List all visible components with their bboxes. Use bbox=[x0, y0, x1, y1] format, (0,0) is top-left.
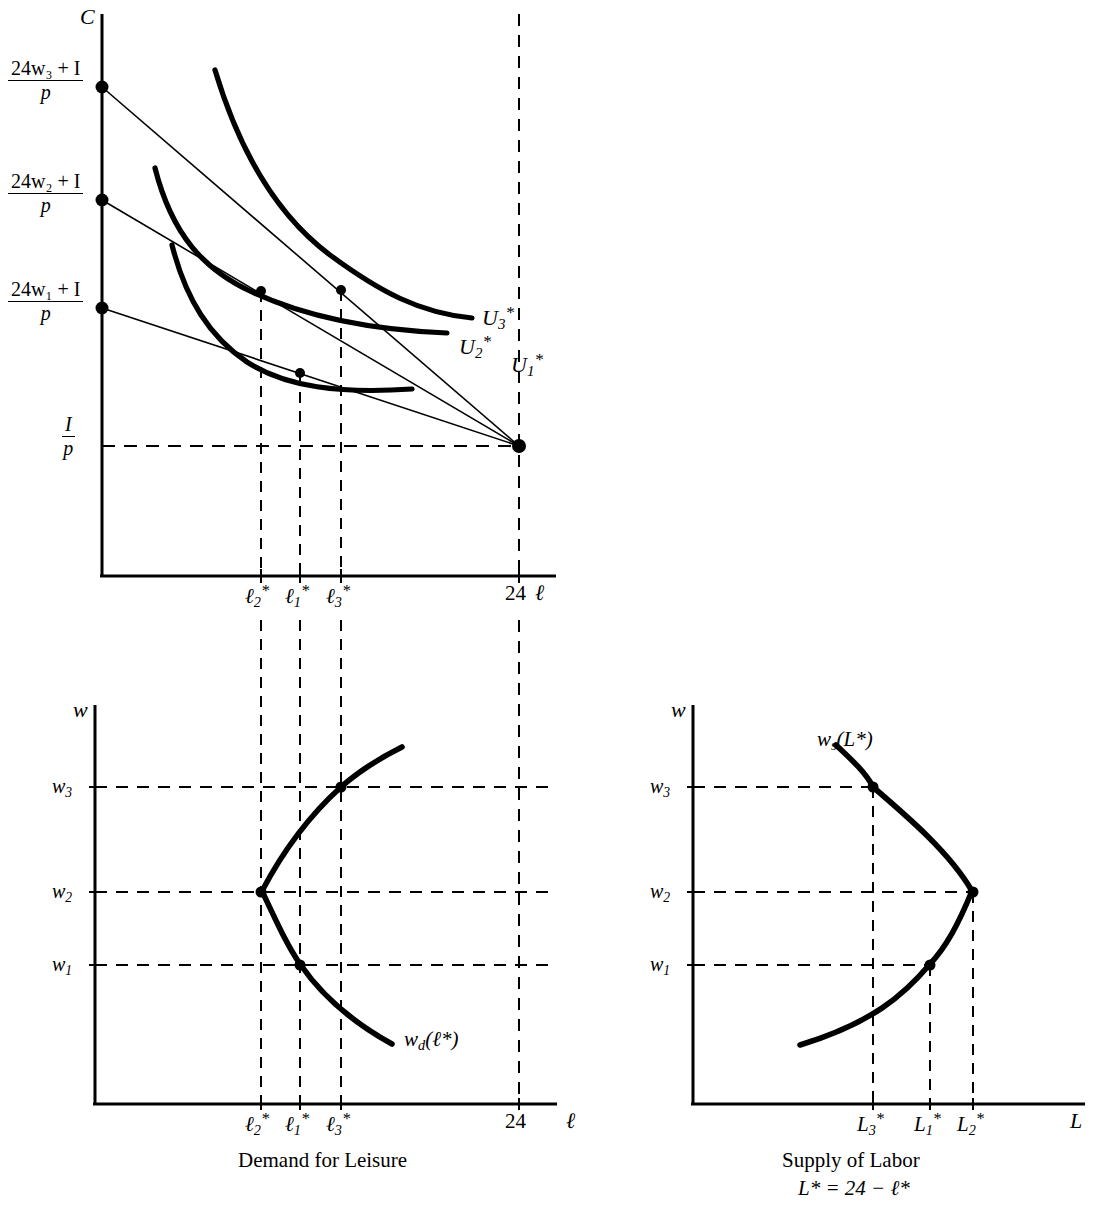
figure-canvas: C ℓ 24w₃ + I p 24w₂ + I p 24w₁ + I p I p… bbox=[0, 0, 1103, 1215]
top-xtick-ell2: ℓ2* bbox=[245, 581, 269, 611]
top-ytick-w2-label: 24w₂ + I p bbox=[8, 171, 83, 216]
br-caption: Supply of Labor bbox=[782, 1148, 920, 1173]
point-tangency-ell1 bbox=[295, 368, 305, 378]
br-xtick-L3: L3* bbox=[857, 1109, 884, 1139]
top-ytick-ip-numerator: I bbox=[62, 414, 75, 437]
supply-curve-label: ws(L*) bbox=[817, 727, 873, 754]
top-xtick-ell3: ℓ3* bbox=[326, 581, 350, 611]
top-ytick-w1-denominator: p bbox=[8, 302, 83, 324]
br-ytick-w2: w2 bbox=[650, 880, 670, 906]
top-ytick-w3-numerator: 24w₃ + I bbox=[8, 58, 83, 81]
point-tangency-ell3 bbox=[336, 285, 346, 295]
demand-for-leisure-curve bbox=[262, 747, 402, 1044]
bl-ytick-w2: w2 bbox=[52, 880, 72, 906]
br-y-axis-label: w bbox=[671, 697, 686, 723]
budget-line-w1 bbox=[102, 308, 519, 446]
supply-of-labor-curve bbox=[800, 745, 972, 1045]
point-demand-w1 bbox=[295, 960, 306, 971]
top-ytick-w1-numerator: 24w₁ + I bbox=[8, 279, 83, 302]
top-ytick-w3-label: 24w₃ + I p bbox=[8, 58, 83, 103]
indifference-curve-U3 bbox=[215, 70, 472, 318]
br-xtick-L2: L2* bbox=[957, 1109, 984, 1139]
point-tangency-ell2 bbox=[256, 286, 266, 296]
panel-bottom-left-demand-for-leisure bbox=[89, 620, 557, 1110]
curve-label-U1: U1* bbox=[511, 350, 543, 380]
top-x-axis-label: ℓ bbox=[535, 580, 544, 606]
panel-bottom-right-supply-of-labor bbox=[687, 705, 1085, 1110]
point-endowment-24 bbox=[512, 439, 526, 453]
bl-ytick-w1: w1 bbox=[52, 953, 72, 979]
curve-label-U2: U2* bbox=[459, 332, 491, 362]
top-ytick-ip-denominator: p bbox=[62, 437, 75, 459]
demand-curve-label: wd(ℓ*) bbox=[404, 1027, 458, 1054]
panel-top-consumption-leisure bbox=[96, 14, 557, 583]
bl-xtick-ell3: ℓ3* bbox=[326, 1109, 350, 1139]
br-x-axis-label: L bbox=[1070, 1108, 1082, 1134]
bl-caption: Demand for Leisure bbox=[238, 1148, 407, 1173]
point-intercept-w1 bbox=[96, 302, 109, 315]
br-caption-formula: L* = 24 − ℓ* bbox=[798, 1176, 910, 1201]
point-supply-w3 bbox=[868, 782, 879, 793]
point-intercept-w3 bbox=[96, 81, 109, 94]
br-xtick-L1: L1* bbox=[914, 1109, 941, 1139]
bl-ytick-w3: w3 bbox=[52, 775, 72, 801]
top-xtick-ell1: ℓ1* bbox=[285, 581, 309, 611]
point-intercept-w2 bbox=[96, 194, 109, 207]
top-y-axis-label: C bbox=[80, 4, 95, 30]
figure-vector-layer bbox=[0, 0, 1103, 1215]
point-demand-w2 bbox=[256, 887, 267, 898]
point-demand-w3 bbox=[336, 782, 347, 793]
curve-label-U3: U3* bbox=[482, 303, 514, 333]
br-ytick-w3: w3 bbox=[650, 775, 670, 801]
top-ytick-w1-label: 24w₁ + I p bbox=[8, 279, 83, 324]
bl-x-axis-label: ℓ bbox=[566, 1108, 575, 1134]
point-supply-w2 bbox=[968, 887, 979, 898]
br-ytick-w1: w1 bbox=[650, 953, 670, 979]
point-supply-w1 bbox=[925, 960, 936, 971]
top-ytick-w3-denominator: p bbox=[8, 81, 83, 103]
budget-line-w3 bbox=[102, 87, 519, 446]
top-ytick-w2-denominator: p bbox=[8, 194, 83, 216]
bl-y-axis-label: w bbox=[73, 697, 88, 723]
bl-xtick-ell2: ℓ2* bbox=[245, 1109, 269, 1139]
top-ytick-w2-numerator: 24w₂ + I bbox=[8, 171, 83, 194]
top-ytick-ip-label: I p bbox=[62, 414, 75, 459]
top-xtick-24: 24 bbox=[505, 581, 526, 606]
bl-xtick-24: 24 bbox=[505, 1109, 526, 1134]
bl-xtick-ell1: ℓ1* bbox=[285, 1109, 309, 1139]
